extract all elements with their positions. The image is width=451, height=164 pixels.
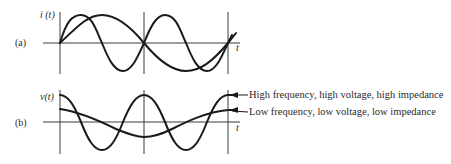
- panel-b-label: (b): [15, 117, 27, 129]
- panel-a: (a) i (t) t: [15, 9, 240, 74]
- high-frequency-annotation: High frequency, high voltage, high imped…: [249, 89, 444, 100]
- high-frequency-arrow: [230, 92, 248, 98]
- panel-a-label: (a): [15, 37, 26, 49]
- panel-b-x-axis-label: t: [236, 122, 239, 133]
- panel-a-y-axis-label: i (t): [40, 9, 55, 21]
- low-frequency-annotation: Low frequency, low voltage, low impedanc…: [249, 106, 436, 117]
- panel-b-y-axis-label: v(t): [40, 91, 55, 103]
- waveform-diagram: (a) i (t) t (b) v(t) t High: [0, 0, 451, 164]
- panel-b: (b) v(t) t High frequency, high voltage,…: [15, 89, 444, 154]
- panel-a-x-axis-label: t: [236, 42, 239, 53]
- low-frequency-arrow: [230, 107, 248, 113]
